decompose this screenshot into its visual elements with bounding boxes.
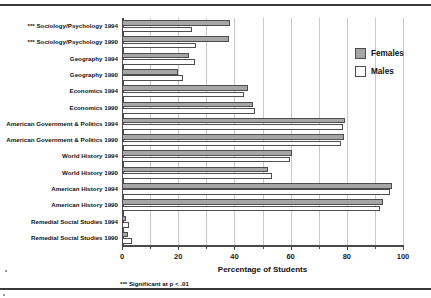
x-axis-tick	[319, 246, 320, 249]
category-label: Economics 1990	[0, 105, 118, 111]
x-axis-tick	[291, 246, 292, 250]
significance-footnote: *** Significant at p < .01	[120, 280, 189, 287]
bar-females	[122, 53, 189, 59]
chart-figure: 020406080100 *** Sociology/Psychology 19…	[0, 0, 431, 298]
category-label: *** Sociology/Psychology 1990	[0, 39, 118, 45]
bar-females	[122, 102, 253, 108]
x-axis-tick	[122, 246, 123, 250]
category-label: Geography 1994	[0, 56, 118, 62]
bar-males	[122, 189, 390, 195]
bar-females	[122, 69, 178, 75]
bar-males	[122, 141, 341, 147]
x-axis-tick	[403, 246, 404, 250]
x-axis-tick	[178, 246, 179, 250]
x-axis-tick	[150, 246, 151, 249]
bar-males	[122, 124, 343, 130]
bar-males	[122, 108, 255, 114]
category-label: American History 1990	[0, 202, 118, 208]
category-label: World History 1994	[0, 153, 118, 159]
x-axis-tick-label: 40	[230, 252, 238, 261]
bar-males	[122, 238, 132, 244]
chart-legend: Females Males	[355, 48, 427, 84]
bar-chart: 020406080100 *** Sociology/Psychology 19…	[0, 0, 431, 298]
bar-males	[122, 222, 129, 228]
bar-females	[122, 85, 248, 91]
x-axis-tick-label: 60	[286, 252, 294, 261]
x-axis-tick	[263, 246, 264, 249]
category-label: Economics 1994	[0, 88, 118, 94]
category-label: American Government & Politics 1990	[0, 137, 118, 143]
bar-males	[122, 27, 192, 33]
legend-swatch-females	[355, 48, 366, 59]
x-axis-tick	[234, 246, 235, 250]
bar-females	[122, 134, 344, 140]
category-label: World History 1990	[0, 170, 118, 176]
bar-males	[122, 59, 195, 65]
bar-females	[122, 36, 229, 42]
bar-females	[122, 183, 392, 189]
x-axis-tick	[206, 246, 207, 249]
category-label: American Government & Politics 1994	[0, 121, 118, 127]
bar-females	[122, 150, 292, 156]
category-label: Remedial Social Studies 1990	[0, 235, 118, 241]
bar-males	[122, 75, 183, 81]
legend-item-males: Males	[355, 66, 427, 77]
x-axis-tick-label: 0	[120, 252, 124, 261]
x-axis-tick	[375, 246, 376, 249]
category-labels: *** Sociology/Psychology 1994*** Sociolo…	[0, 18, 118, 246]
legend-swatch-males	[355, 66, 366, 77]
bar-females	[122, 216, 126, 222]
bar-females	[122, 232, 128, 238]
bar-females	[122, 20, 230, 26]
x-axis-tick-label: 80	[343, 252, 351, 261]
bar-males	[122, 206, 380, 212]
x-axis-tick-label: 100	[397, 252, 410, 261]
bar-males	[122, 43, 196, 49]
x-axis-tick-label: 20	[174, 252, 182, 261]
bar-females	[122, 167, 268, 173]
bar-males	[122, 157, 290, 163]
category-label: American History 1994	[0, 186, 118, 192]
x-axis-tick	[347, 246, 348, 250]
bar-females	[122, 118, 345, 124]
legend-item-females: Females	[355, 48, 427, 59]
bar-males	[122, 92, 244, 98]
bar-males	[122, 173, 272, 179]
category-label: *** Sociology/Psychology 1994	[0, 23, 118, 29]
bar-females	[122, 199, 383, 205]
legend-label-males: Males	[371, 67, 394, 76]
category-label: Geography 1990	[0, 72, 118, 78]
category-label: Remedial Social Studies 1994	[0, 219, 118, 225]
legend-label-females: Females	[371, 49, 404, 58]
x-axis-title: Percentage of Students	[122, 265, 403, 274]
